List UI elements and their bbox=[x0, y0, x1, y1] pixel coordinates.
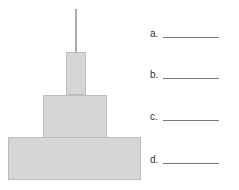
answer-line-c[interactable] bbox=[163, 120, 219, 121]
answer-line-b[interactable] bbox=[163, 78, 219, 79]
base-block bbox=[8, 137, 141, 180]
middle-block bbox=[43, 95, 107, 138]
answer-line-a[interactable] bbox=[163, 37, 219, 38]
antenna-spire bbox=[75, 9, 77, 52]
label-a: a. bbox=[150, 29, 158, 39]
top-block bbox=[66, 52, 86, 95]
answer-line-d[interactable] bbox=[163, 163, 219, 164]
label-b: b. bbox=[150, 70, 158, 80]
label-d: d. bbox=[150, 155, 158, 165]
label-c: c. bbox=[150, 112, 158, 122]
